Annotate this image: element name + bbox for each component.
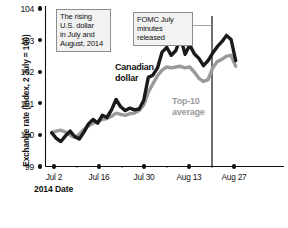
- annotation-fomc: FOMC July minutes released: [133, 12, 193, 46]
- annotation-fomc-line-1: FOMC July: [137, 15, 189, 24]
- annotation-rising-dollar-line-4: August, 2014: [60, 39, 107, 48]
- series-label-canadian-dollar-line-2: dollar: [115, 73, 154, 84]
- series-label-top10-average-line-2: average: [172, 107, 205, 118]
- series-label-top10-average-line-1: Top-10: [172, 96, 205, 107]
- annotation-rising-dollar-line-3: in July and: [60, 30, 107, 39]
- series-label-top10-average: Top-10 average: [172, 96, 205, 117]
- series-label-canadian-dollar-line-1: Canadian: [115, 62, 154, 73]
- annotation-rising-dollar-line-1: The rising: [60, 12, 107, 21]
- series-label-canadian-dollar: Canadian dollar: [115, 62, 154, 83]
- chart-figure: Exchange rate (Index, 2 July = 100) 104 …: [0, 0, 288, 228]
- annotation-rising-dollar-line-2: U.S. dollar: [60, 21, 107, 30]
- annotation-rising-dollar: The rising U.S. dollar in July and Augus…: [56, 9, 111, 52]
- annotation-fomc-line-2: minutes released: [137, 24, 189, 42]
